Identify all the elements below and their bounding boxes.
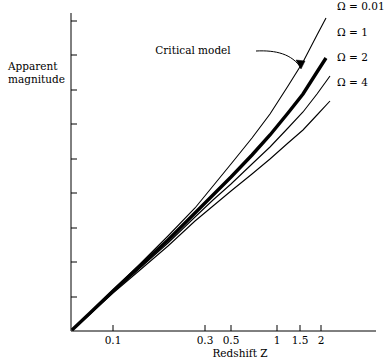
x-tick-label-1.5: 1.5 bbox=[292, 334, 309, 346]
legend-label-omega-4: Ω = 4 bbox=[337, 76, 368, 88]
x-tick-label-group: 0.1 0.3 0.5 1 1.5 2 bbox=[105, 334, 325, 346]
critical-model-annotation: Critical model bbox=[155, 44, 305, 69]
x-tick-label-0.1: 0.1 bbox=[105, 334, 122, 346]
x-axis-title: Redshift Z bbox=[212, 347, 267, 358]
hubble-diagram-figure: 0.1 0.3 0.5 1 1.5 2 Redshift Z Apparent … bbox=[0, 0, 386, 358]
curve-omega-0.01 bbox=[72, 18, 326, 330]
legend-group: Ω = 0.01 Ω = 1 Ω = 2 Ω = 4 bbox=[337, 0, 385, 88]
curve-omega-4 bbox=[72, 101, 330, 330]
critical-model-arrowhead bbox=[296, 60, 305, 69]
x-tick-label-1: 1 bbox=[274, 334, 281, 346]
legend-label-omega-0.01: Ω = 0.01 bbox=[337, 0, 385, 12]
x-tick-group bbox=[113, 325, 321, 331]
y-tick-group bbox=[71, 21, 77, 297]
x-tick-label-0.5: 0.5 bbox=[223, 334, 240, 346]
axis-group bbox=[71, 13, 376, 331]
x-tick-label-2: 2 bbox=[318, 334, 325, 346]
x-tick-label-0.3: 0.3 bbox=[197, 334, 214, 346]
critical-model-label: Critical model bbox=[155, 44, 231, 56]
legend-label-omega-1: Ω = 1 bbox=[337, 26, 368, 38]
chart-canvas: 0.1 0.3 0.5 1 1.5 2 Redshift Z Apparent … bbox=[0, 0, 386, 358]
legend-label-omega-2: Ω = 2 bbox=[337, 51, 368, 63]
y-axis-title-line1: Apparent bbox=[7, 60, 58, 72]
critical-model-leader-line bbox=[256, 51, 301, 68]
y-axis-title-line2: magnitude bbox=[8, 73, 65, 85]
curve-omega-1 bbox=[72, 58, 326, 330]
curve-group bbox=[72, 18, 330, 330]
